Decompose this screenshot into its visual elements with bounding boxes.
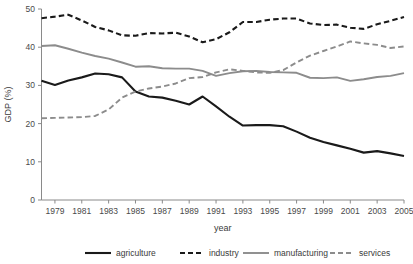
y-tick-label: 10 bbox=[26, 157, 36, 167]
legend-label-manufacturing: manufacturing bbox=[274, 248, 328, 258]
x-tick-label: 1987 bbox=[153, 206, 172, 216]
chart-legend: agricultureindustrymanufacturingservices bbox=[85, 248, 390, 258]
x-tick-label: 1995 bbox=[260, 206, 279, 216]
x-tick-label: 1981 bbox=[72, 206, 91, 216]
line-chart: 01020304050 1979198119831985198719891991… bbox=[0, 0, 413, 264]
y-axis: 01020304050 bbox=[26, 4, 42, 205]
x-tick-label: 1989 bbox=[180, 206, 199, 216]
legend-label-services: services bbox=[359, 248, 390, 258]
series-lines bbox=[42, 15, 405, 156]
y-tick-label: 40 bbox=[26, 42, 36, 52]
x-tick-label: 2005 bbox=[395, 206, 413, 216]
y-axis-title: GDP (%) bbox=[3, 87, 13, 123]
y-tick-label: 0 bbox=[30, 195, 35, 205]
y-tick-label: 50 bbox=[26, 4, 36, 14]
x-tick-label: 1993 bbox=[233, 206, 252, 216]
series-line-industry bbox=[42, 15, 405, 43]
x-tick-label: 2003 bbox=[368, 206, 387, 216]
legend-label-agriculture: agriculture bbox=[116, 248, 156, 258]
x-tick-label: 1979 bbox=[45, 206, 64, 216]
legend-label-industry: industry bbox=[209, 248, 240, 258]
chart-figure: 01020304050 1979198119831985198719891991… bbox=[0, 0, 413, 264]
x-tick-label: 1985 bbox=[126, 206, 145, 216]
series-line-manufacturing bbox=[42, 45, 405, 81]
x-tick-label: 1999 bbox=[314, 206, 333, 216]
x-axis-title: year bbox=[214, 223, 232, 233]
x-axis: 1979198119831985198719891991199319951997… bbox=[42, 200, 413, 216]
y-tick-label: 20 bbox=[26, 119, 36, 129]
x-tick-label: 1997 bbox=[287, 206, 306, 216]
x-tick-label: 1983 bbox=[99, 206, 118, 216]
x-tick-label: 2001 bbox=[341, 206, 360, 216]
y-tick-label: 30 bbox=[26, 80, 36, 90]
x-tick-label: 1991 bbox=[207, 206, 226, 216]
